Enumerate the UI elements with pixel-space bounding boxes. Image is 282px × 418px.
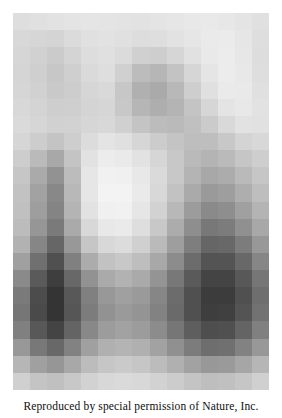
pixel-block: [64, 304, 81, 321]
pixel-block: [218, 236, 235, 253]
pixel-block: [201, 339, 218, 356]
pixel-block: [132, 373, 149, 390]
pixel-block: [252, 253, 269, 270]
pixel-block: [115, 47, 132, 64]
pixel-block: [47, 167, 64, 184]
pixel-block: [132, 304, 149, 321]
pixel-block: [252, 373, 269, 390]
pixel-block: [81, 253, 98, 270]
pixel-block: [47, 30, 64, 47]
pixel-block: [64, 321, 81, 338]
pixel-block: [98, 356, 115, 373]
pixel-block: [167, 150, 184, 167]
pixel-block: [235, 184, 252, 201]
pixel-block: [47, 321, 64, 338]
pixel-block: [252, 356, 269, 373]
pixel-block: [150, 202, 167, 219]
pixel-block: [115, 219, 132, 236]
pixel-block: [13, 236, 30, 253]
pixel-block: [64, 356, 81, 373]
pixel-block: [235, 47, 252, 64]
pixel-block: [64, 253, 81, 270]
pixel-block: [218, 321, 235, 338]
pixel-block: [98, 304, 115, 321]
pixel-block: [167, 116, 184, 133]
pixel-block: [13, 47, 30, 64]
pixel-block: [235, 64, 252, 81]
pixel-block: [30, 236, 47, 253]
pixel-block: [201, 184, 218, 201]
pixel-block: [47, 82, 64, 99]
pixel-block: [132, 236, 149, 253]
pixel-block: [30, 373, 47, 390]
pixel-block: [150, 82, 167, 99]
pixel-block: [184, 219, 201, 236]
pixel-block: [64, 13, 81, 30]
pixel-block: [30, 13, 47, 30]
pixel-block: [115, 287, 132, 304]
pixel-block: [167, 184, 184, 201]
pixel-block: [132, 13, 149, 30]
pixel-block: [30, 64, 47, 81]
pixel-block: [132, 253, 149, 270]
pixel-block: [201, 356, 218, 373]
pixel-block: [30, 202, 47, 219]
pixel-block: [13, 30, 30, 47]
pixel-block: [64, 64, 81, 81]
pixel-block: [98, 99, 115, 116]
pixel-block: [81, 82, 98, 99]
pixel-block: [218, 219, 235, 236]
pixel-block: [47, 99, 64, 116]
pixel-block: [218, 47, 235, 64]
pixel-block: [218, 184, 235, 201]
pixel-block: [184, 13, 201, 30]
pixel-block: [81, 116, 98, 133]
pixel-block: [252, 304, 269, 321]
pixel-block: [115, 30, 132, 47]
pixel-block: [252, 82, 269, 99]
pixel-block: [167, 270, 184, 287]
pixel-block: [201, 82, 218, 99]
pixel-block: [115, 339, 132, 356]
pixel-block: [150, 321, 167, 338]
pixel-block: [132, 47, 149, 64]
pixel-block: [47, 64, 64, 81]
pixel-block: [98, 202, 115, 219]
pixel-block: [47, 236, 64, 253]
pixel-block: [47, 202, 64, 219]
pixel-block: [150, 253, 167, 270]
pixel-block: [13, 287, 30, 304]
pixel-block: [150, 167, 167, 184]
pixel-block: [252, 167, 269, 184]
pixel-block: [115, 167, 132, 184]
pixel-block: [47, 339, 64, 356]
pixel-block: [115, 82, 132, 99]
pixel-block: [235, 82, 252, 99]
figure-container: Reproduced by special permission of Natu…: [0, 0, 282, 418]
pixel-block: [218, 202, 235, 219]
pixel-block: [201, 167, 218, 184]
pixel-block: [201, 253, 218, 270]
pixel-block: [81, 99, 98, 116]
pixel-block: [81, 270, 98, 287]
pixel-block: [184, 116, 201, 133]
pixel-block: [184, 150, 201, 167]
pixel-block: [184, 184, 201, 201]
pixel-block: [150, 13, 167, 30]
pixel-block: [81, 202, 98, 219]
pixel-block: [30, 270, 47, 287]
pixel-block: [13, 373, 30, 390]
pixel-block: [115, 64, 132, 81]
pixel-block: [167, 219, 184, 236]
pixel-block: [167, 82, 184, 99]
pixel-block: [115, 304, 132, 321]
pixel-block: [218, 304, 235, 321]
pixel-block: [64, 133, 81, 150]
pixel-block: [47, 373, 64, 390]
pixel-block: [218, 116, 235, 133]
pixel-block: [132, 116, 149, 133]
pixel-block: [98, 133, 115, 150]
pixel-block: [81, 304, 98, 321]
pixel-block: [252, 202, 269, 219]
pixel-block: [30, 30, 47, 47]
